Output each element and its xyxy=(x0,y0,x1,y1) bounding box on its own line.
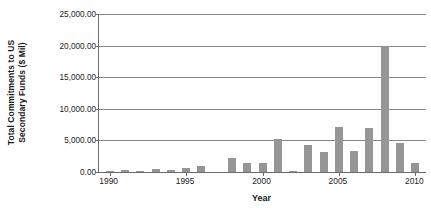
x-axis-tick-label: 1990 xyxy=(99,176,118,186)
y-axis-tick-label: 5,000.00 xyxy=(38,136,96,145)
x-axis-tick-labels: 19901995200020052010 xyxy=(98,0,425,214)
x-axis-tick-label: 2000 xyxy=(252,176,271,186)
y-axis-title-line1: Total Commitments to US xyxy=(7,40,17,146)
y-axis-tick-label: 0.00 xyxy=(38,168,96,177)
bar-chart: Total Commitments to US Secondary Funds … xyxy=(0,0,431,214)
y-axis-tick-label: 20,000.00 xyxy=(38,41,96,50)
y-axis-tick-label: 10,000.00 xyxy=(38,104,96,113)
y-axis-tick-labels: 0.005,000.0010,000.0015,000.0020,000.002… xyxy=(34,0,96,214)
x-axis-tick-label: 1995 xyxy=(176,176,195,186)
y-axis-title-line2: Secondary Funds ($ Mil) xyxy=(17,40,28,146)
y-axis-tick-label: 25,000.00 xyxy=(38,10,96,19)
x-axis-tick-label: 2005 xyxy=(329,176,348,186)
x-axis-tick-label: 2010 xyxy=(405,176,424,186)
y-axis-title: Total Commitments to US Secondary Funds … xyxy=(0,0,34,185)
x-axis-title: Year xyxy=(98,193,425,203)
y-axis-tick-label: 15,000.00 xyxy=(38,73,96,82)
